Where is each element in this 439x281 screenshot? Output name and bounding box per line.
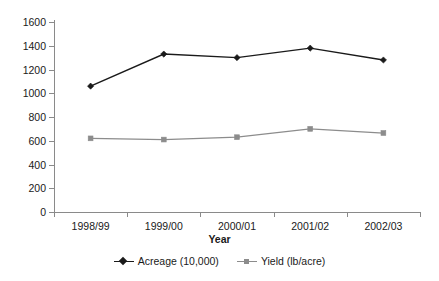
legend-marker-icon (237, 257, 257, 266)
data-point-square (381, 131, 386, 136)
legend-diamond-icon (118, 256, 126, 264)
data-point-diamond (161, 51, 167, 57)
data-point-square (308, 126, 313, 131)
data-point-square (235, 135, 240, 140)
legend-marker-icon (114, 257, 134, 266)
legend-label: Acreage (10,000) (138, 255, 219, 267)
data-point-diamond (380, 57, 386, 63)
data-point-square (88, 136, 93, 141)
series-yield (88, 126, 386, 141)
series-line (91, 48, 384, 86)
legend-entry-acreage: Acreage (10,000) (114, 255, 219, 267)
legend-square-icon (244, 259, 249, 264)
data-point-diamond (234, 55, 240, 61)
line-chart: 02004006008001000120014001600 1998/99199… (0, 0, 439, 281)
series-plot-area (0, 0, 439, 281)
chart-legend: Acreage (10,000)Yield (lb/acre) (0, 255, 439, 267)
legend-label: Yield (lb/acre) (261, 255, 325, 267)
data-point-diamond (307, 45, 313, 51)
data-point-diamond (88, 83, 94, 89)
series-acreage (88, 45, 387, 89)
legend-entry-yield: Yield (lb/acre) (237, 255, 325, 267)
data-point-square (161, 137, 166, 142)
